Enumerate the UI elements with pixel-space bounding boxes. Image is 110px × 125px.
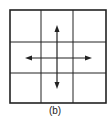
grid bbox=[10, 10, 106, 103]
cross-arrows bbox=[25, 25, 92, 89]
arrow-down-icon bbox=[55, 82, 60, 89]
figure-caption: (b) bbox=[0, 105, 110, 116]
arrow-left-icon bbox=[25, 56, 32, 61]
arrow-up-icon bbox=[55, 25, 60, 32]
grid-outer-border bbox=[10, 10, 106, 103]
arrow-right-icon bbox=[85, 56, 92, 61]
